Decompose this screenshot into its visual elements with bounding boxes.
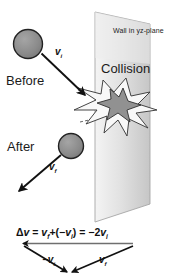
vector-label-v-final-after: vf (49, 162, 57, 174)
label-collision: Collision (101, 62, 150, 75)
formula-vi2-sub: i (106, 233, 108, 240)
vector-label-v-final-after-sub: f (55, 168, 57, 174)
collision-diagram-figure: Before After Collision Wall in yz-plane … (0, 0, 181, 277)
formula-delta: Δ (16, 226, 24, 238)
vector-label-v-initial: vi (55, 47, 62, 59)
velocity-initial-arrow (42, 54, 86, 96)
ball-before (14, 30, 43, 59)
formula-plus-open: +(− (49, 226, 65, 238)
vector-label-neg-v-initial-sub: i (53, 261, 55, 267)
label-wall-plane: Wall in yz-plane (113, 27, 164, 34)
ball-after (59, 134, 84, 159)
vector-label-v-final-triangle-sub: f (105, 261, 107, 267)
label-before: Before (6, 74, 44, 87)
vector-label-v-final-triangle: vf (99, 255, 107, 267)
label-after: After (7, 140, 34, 153)
formula-eq1: = (29, 226, 41, 238)
vector-label-neg-v-initial: −vi (42, 255, 55, 267)
vector-label-neg-v-initial-base: −v (42, 254, 53, 265)
delta-v-formula: Δv = vf+(−vi) = −2vi (16, 227, 108, 241)
formula-close-eq: ) = −2 (73, 226, 100, 238)
vector-label-v-initial-sub: i (61, 53, 63, 59)
